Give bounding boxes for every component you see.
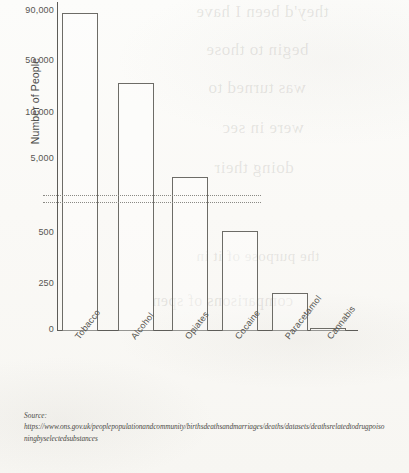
y-axis-tick-label: 5,000	[0, 153, 54, 163]
y-axis-tick-labels: 90,00050,00010,0005,0005002500	[0, 0, 54, 340]
source-citation: Source: https://www.ons.gov.uk/peoplepop…	[24, 410, 386, 444]
axis-break-line	[43, 195, 261, 196]
y-axis-tick-label: 90,000	[0, 5, 54, 15]
axis-break-line	[43, 202, 261, 203]
bar-tobacco	[62, 13, 98, 331]
source-label: Source:	[24, 410, 386, 421]
y-axis-tick-label: 10,000	[0, 107, 54, 117]
x-axis-category-labels: TobaccoAlcoholOpiatesCocaineParacetamolC…	[57, 333, 387, 393]
source-url: https://www.ons.gov.uk/peoplepopulationa…	[24, 421, 386, 444]
plot-area	[57, 2, 358, 331]
bar-alcohol	[118, 83, 154, 331]
y-axis-tick-label: 500	[0, 227, 54, 237]
y-axis-tick-label: 0	[0, 324, 54, 334]
y-axis-tick-label: 250	[0, 278, 54, 288]
y-axis-line	[57, 2, 58, 331]
bar-chart-figure: Number of People 90,00050,00010,0005,000…	[0, 0, 409, 400]
bar-opiates	[172, 177, 208, 331]
y-axis-tick-label: 50,000	[0, 55, 54, 65]
